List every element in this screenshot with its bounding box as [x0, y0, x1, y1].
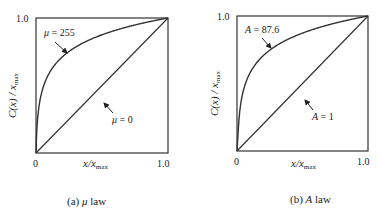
x-tick-zero: 0 [33, 158, 38, 169]
x-axis-label: x/xmax [82, 157, 108, 171]
arrow-to-line-icon [305, 100, 313, 110]
x-tick-one: 1.0 [157, 158, 170, 169]
panel-b-a-law: 1.0 0 1.0 x/xmax C(x) / xmax A = 87.6 A … [208, 11, 370, 206]
panel-b-caption: (b) A law [290, 193, 331, 206]
annotation-a-1: A = 1 [311, 111, 334, 122]
figure-canvas: 1.0 0 1.0 x/xmax C(x) / xmax μ = 255 μ =… [0, 0, 381, 213]
y-axis-label: C(x) / xmax [6, 72, 20, 118]
arrow-to-curve-icon [262, 38, 271, 48]
y-tick-top: 1.0 [217, 11, 230, 22]
x-axis-label: x/xmax [290, 157, 316, 171]
arrow-to-line-icon [104, 103, 113, 113]
linear-line-mu-0 [36, 18, 168, 153]
panel-a-caption: (a) μ law [67, 195, 106, 208]
annotation-mu-0: μ = 0 [111, 114, 133, 125]
annotation-mu-255: μ = 255 [43, 27, 75, 38]
arrow-to-curve-icon [55, 42, 67, 53]
y-tick-top: 1.0 [16, 13, 29, 24]
annotation-a-87-6: A = 87.6 [244, 24, 279, 35]
linear-line-a-1 [237, 16, 368, 151]
y-axis-label: C(x) / xmax [208, 70, 222, 116]
x-tick-zero: 0 [234, 156, 239, 167]
x-tick-one: 1.0 [357, 156, 370, 167]
panel-a-mu-law: 1.0 0 1.0 x/xmax C(x) / xmax μ = 255 μ =… [6, 13, 170, 208]
